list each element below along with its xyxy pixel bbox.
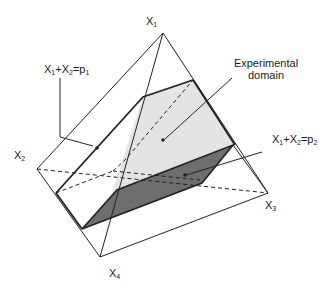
domain-label-line2: domain bbox=[226, 69, 306, 81]
domain-label-line1: Experimental bbox=[226, 57, 306, 69]
vertex-label-x4: X4 bbox=[109, 268, 120, 280]
vertex-label-x3: X3 bbox=[265, 200, 276, 212]
edge-x2-x4 bbox=[37, 169, 100, 257]
p1-leader bbox=[60, 78, 93, 146]
plane-p1-label: X1+X2=p1 bbox=[44, 64, 89, 76]
plane-p2-label: X1+X2=p2 bbox=[272, 134, 317, 146]
vertex-label-x1: X1 bbox=[146, 16, 157, 28]
experimental-domain-label: Experimental domain bbox=[226, 57, 306, 81]
vertex-label-x2: X2 bbox=[14, 150, 25, 162]
